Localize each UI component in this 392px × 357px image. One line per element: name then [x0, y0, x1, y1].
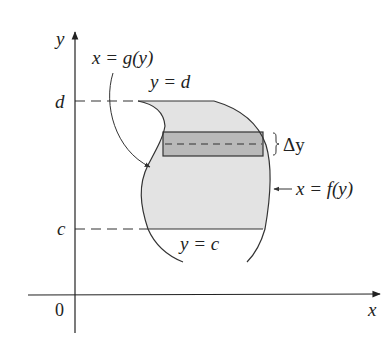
g-label-pointer-arrow: [110, 73, 150, 167]
c-tick-label: c: [57, 218, 66, 239]
x-axis-label: x: [367, 299, 377, 320]
delta-y-label: Δy: [283, 134, 305, 155]
origin-label: 0: [55, 300, 64, 320]
bottom-boundary-label: y = c: [178, 233, 220, 254]
f-curve-label: x = f(y): [295, 178, 353, 200]
g-curve-label: x = g(y): [91, 47, 153, 69]
d-tick-label: d: [55, 91, 65, 112]
top-boundary-label: y = d: [148, 71, 191, 92]
area-between-curves-diagram: y x 0 d c x = g(y) y = d y = c Δy x = f(…: [0, 0, 392, 357]
y-axis-label: y: [54, 28, 65, 49]
x-axis: [28, 294, 380, 295]
delta-y-brace: [273, 133, 279, 155]
